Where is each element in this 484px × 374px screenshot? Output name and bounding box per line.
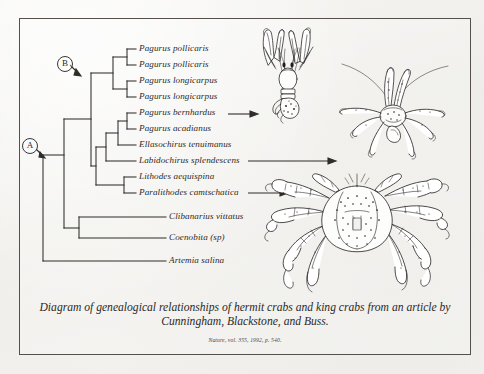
figure-page: A B Pagurus pollicaris Pagurus pollicari… [0,0,484,374]
figure-border [19,18,471,355]
